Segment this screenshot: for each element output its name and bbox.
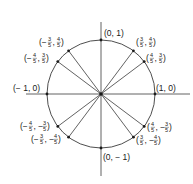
point-q4b [132, 136, 135, 139]
point-q3a [56, 125, 59, 128]
label-q3b: (− 3 5 , − 4 5 ) [31, 133, 61, 145]
svg-text:(−: (− [31, 134, 39, 144]
svg-text:5: 5 [150, 58, 153, 64]
svg-text:,: , [53, 37, 55, 47]
svg-text:(: ( [147, 122, 150, 132]
svg-text:5: 5 [165, 127, 168, 133]
svg-text:): ) [169, 122, 172, 132]
label-q4a: ( 4 5 , − 3 5 ) [147, 121, 172, 133]
svg-text:5: 5 [29, 126, 32, 132]
svg-text:5: 5 [43, 126, 46, 132]
svg-text:5: 5 [33, 58, 36, 64]
svg-text:(−: (− [20, 121, 28, 131]
label-q1a: ( 3 5 , 4 5 ) [136, 36, 156, 48]
svg-text:(: ( [136, 135, 139, 145]
svg-text:): ) [47, 121, 50, 131]
svg-text:, −: , − [34, 121, 44, 131]
radius-q1b [101, 62, 144, 94]
radius-q4a [101, 94, 144, 126]
svg-text:): ) [46, 53, 49, 63]
svg-text:, −: , − [45, 134, 55, 144]
point-center [99, 92, 103, 96]
svg-text:5: 5 [42, 58, 45, 64]
label-bottom: (0, − 1) [103, 152, 130, 162]
label-q1b: ( 4 5 , 3 5 ) [146, 52, 166, 64]
svg-text:5: 5 [48, 42, 51, 48]
svg-text:, −: , − [145, 135, 155, 145]
svg-text:5: 5 [154, 140, 157, 146]
svg-text:(: ( [146, 53, 149, 63]
svg-text:5: 5 [140, 42, 143, 48]
svg-text:): ) [158, 135, 161, 145]
label-left: (− 1, 0) [13, 83, 40, 93]
radius-q2b [69, 51, 101, 94]
svg-text:): ) [58, 134, 61, 144]
point-0-neg1 [100, 147, 103, 150]
label-q2a: (− 3 5 , 4 5 ) [39, 36, 64, 48]
svg-text:5: 5 [149, 42, 152, 48]
svg-text:,: , [38, 53, 40, 63]
point-q2a [56, 60, 59, 63]
point-q4a [143, 125, 146, 128]
radius-q3a [58, 94, 101, 126]
svg-text:5: 5 [54, 139, 57, 145]
svg-text:, −: , − [156, 122, 166, 132]
label-top: (0, 1) [104, 28, 124, 38]
label-right: (1, 0) [156, 83, 176, 93]
radius-q1a [101, 51, 133, 94]
svg-text:5: 5 [140, 140, 143, 146]
point-q1a [132, 49, 135, 52]
svg-text:(−: (− [39, 37, 47, 47]
radius-q4b [101, 94, 133, 137]
point-neg1-0 [46, 93, 49, 96]
svg-text:): ) [61, 37, 64, 47]
point-0-1 [100, 39, 103, 42]
label-q3a: (− 4 5 , − 3 5 ) [20, 120, 50, 132]
svg-text:): ) [153, 37, 156, 47]
svg-text:5: 5 [40, 139, 43, 145]
svg-text:): ) [163, 53, 166, 63]
radius-q3b [69, 94, 101, 137]
svg-text:5: 5 [151, 127, 154, 133]
svg-text:5: 5 [159, 58, 162, 64]
point-q3b [67, 136, 70, 139]
point-1-0 [154, 93, 157, 96]
point-q2b [67, 49, 70, 52]
svg-text:5: 5 [57, 42, 60, 48]
svg-text:,: , [145, 37, 147, 47]
unit-circle-diagram: (0, 1) (0, − 1) (1, 0) (− 1, 0) ( 3 5 , … [0, 0, 193, 184]
svg-text:(: ( [136, 37, 139, 47]
label-q4b: ( 3 5 , − 4 5 ) [136, 134, 161, 146]
svg-text:(−: (− [24, 53, 32, 63]
svg-text:,: , [155, 53, 157, 63]
radius-q2a [58, 62, 101, 94]
label-q2b: (− 4 5 , 3 5 ) [24, 52, 49, 64]
